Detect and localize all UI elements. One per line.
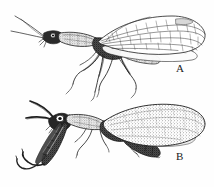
mantidfly-antennae <box>26 101 54 120</box>
figure-a-label: A <box>176 63 184 74</box>
figure-b-label: B <box>176 151 183 162</box>
figure-plate: A B <box>0 0 214 187</box>
mantidfly-raptorial-forelegs <box>16 122 68 169</box>
